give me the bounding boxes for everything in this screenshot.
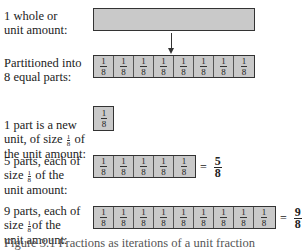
fraction-cell: 18 [174, 156, 194, 177]
fraction-cell: 18 [134, 207, 154, 228]
figure-caption: Figure 3.1 Fractions as iterations of a … [4, 236, 255, 251]
fraction-cell: 18 [254, 207, 274, 228]
fraction-cell: 18 [114, 207, 134, 228]
fraction-cell: 18 [194, 207, 214, 228]
five-parts-bar: 1818181818 [93, 155, 196, 178]
fraction-cell: 18 [94, 156, 114, 177]
label-five-parts: 5 parts, each of size 18 of the unit amo… [4, 140, 80, 197]
unit-bar [93, 8, 255, 31]
fraction-cell: 18 [154, 156, 174, 177]
nine-eighths-result: = 98 [280, 207, 302, 230]
fraction-cell: 18 [194, 56, 214, 77]
label-partitioned: Partitioned into 8 equal parts: [4, 56, 81, 84]
inline-fraction: 18 [28, 170, 32, 183]
fraction-cell: 18 [214, 207, 234, 228]
label-unit-amount: 1 whole or unit amount: [4, 9, 68, 37]
fraction-cell: 18 [94, 107, 114, 130]
fraction-cell: 18 [94, 56, 114, 77]
fraction-cell: 18 [234, 56, 254, 77]
five-eighths-result: = 58 [200, 156, 222, 179]
single-part-box: 18 [93, 106, 114, 131]
nine-parts-bar: 181818181818181818 [93, 206, 276, 229]
fraction-cell: 18 [154, 207, 174, 228]
fraction-cell: 18 [154, 56, 174, 77]
fraction-cell: 18 [134, 56, 154, 77]
fraction-cell: 18 [134, 156, 154, 177]
inline-fraction: 18 [28, 220, 32, 233]
fraction-cell: 18 [174, 56, 194, 77]
fraction-cell: 18 [114, 156, 134, 177]
fraction-cell: 18 [114, 56, 134, 77]
fraction-cell: 18 [214, 56, 234, 77]
fraction-cell: 18 [94, 207, 114, 228]
partitioned-bar: 1818181818181818 [93, 55, 255, 78]
fraction-cell: 18 [174, 207, 194, 228]
down-arrow-icon [171, 33, 172, 49]
fraction-cell: 18 [234, 207, 254, 228]
